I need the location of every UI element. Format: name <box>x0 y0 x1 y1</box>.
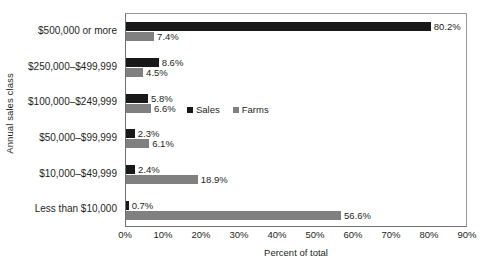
bar-farms <box>126 32 154 41</box>
category-label: $500,000 or more <box>38 25 117 36</box>
bar-value-label: 4.5% <box>143 68 168 77</box>
x-axis-tick: 20% <box>191 229 210 240</box>
bar-value-label: 6.6% <box>151 104 176 113</box>
x-axis-tick: 90% <box>457 229 476 240</box>
bar-sales <box>126 94 148 103</box>
x-axis-tick: 50% <box>305 229 324 240</box>
bar-value-label: 5.8% <box>148 94 173 103</box>
x-axis-tick: 80% <box>419 229 438 240</box>
x-axis-tick: 30% <box>229 229 248 240</box>
bar-chart: Annual sales class $500,000 or more$250,… <box>0 0 492 277</box>
bar-value-label: 7.4% <box>154 32 179 41</box>
x-axis-tick: 10% <box>153 229 172 240</box>
bar-farms <box>126 68 143 77</box>
bar-value-label: 56.6% <box>341 211 371 220</box>
bars-layer: 80.2%7.4%8.6%4.5%5.8%6.6%2.3%6.1%2.4%18.… <box>126 14 466 226</box>
x-axis-tick: 60% <box>343 229 362 240</box>
bar-sales <box>126 22 431 31</box>
bar-sales <box>126 58 159 67</box>
bar-farms <box>126 211 341 220</box>
category-label: $250,000–$499,999 <box>28 61 117 72</box>
x-axis-tick: 40% <box>267 229 286 240</box>
bar-value-label: 18.9% <box>198 175 228 184</box>
legend-label-farms: Farms <box>242 104 269 115</box>
bar-sales <box>126 129 135 138</box>
bar-value-label: 2.3% <box>135 129 160 138</box>
x-axis-tick-labels: 0%10%20%30%40%50%60%70%80%90% <box>125 229 467 243</box>
x-axis-tick: 70% <box>381 229 400 240</box>
bar-farms <box>126 139 149 148</box>
category-label-column: $500,000 or more$250,000–$499,999$100,00… <box>18 13 121 227</box>
x-axis-tick: 0% <box>118 229 132 240</box>
bar-value-label: 2.4% <box>135 165 160 174</box>
chart-legend: Sales Farms <box>187 104 269 115</box>
category-label: $100,000–$249,999 <box>28 96 117 107</box>
x-axis-title: Percent of total <box>125 247 467 258</box>
bar-farms <box>126 175 198 184</box>
plot-area: 80.2%7.4%8.6%4.5%5.8%6.6%2.3%6.1%2.4%18.… <box>125 13 467 227</box>
legend-entry-farms: Farms <box>233 104 269 115</box>
legend-label-sales: Sales <box>196 104 220 115</box>
category-label: $50,000–$99,999 <box>39 132 117 143</box>
category-label: Less than $10,000 <box>35 203 117 214</box>
y-axis-title: Annual sales class <box>0 0 18 227</box>
bar-farms <box>126 104 151 113</box>
bar-sales <box>126 165 135 174</box>
category-label: $10,000–$49,999 <box>39 168 117 179</box>
bar-value-label: 6.1% <box>149 139 174 148</box>
y-axis-title-text: Annual sales class <box>4 73 15 153</box>
bar-value-label: 80.2% <box>431 22 461 31</box>
legend-swatch-farms-icon <box>233 107 239 113</box>
legend-entry-sales: Sales <box>187 104 220 115</box>
bar-value-label: 8.6% <box>159 58 184 67</box>
bar-value-label: 0.7% <box>129 201 154 210</box>
legend-swatch-sales-icon <box>187 107 193 113</box>
